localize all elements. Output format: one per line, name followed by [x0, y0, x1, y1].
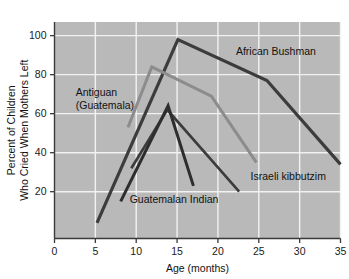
- x-tick-label: 35: [335, 245, 347, 257]
- series-label-guatemalan-indian: Guatemalan Indian: [130, 193, 219, 205]
- y-tick-label: 60: [35, 107, 47, 119]
- series-label-israeli-kibbutzim: Israeli kibbutzim: [251, 170, 327, 182]
- x-axis-title: Age (months): [166, 262, 229, 274]
- y-tick-label: 100: [29, 29, 47, 41]
- series-label-antiguan-guatemala: Antiguan: [76, 86, 118, 98]
- x-tick-label: 0: [52, 245, 58, 257]
- series-label-antiguan-guatemala: (Guatemala): [76, 99, 134, 111]
- series-label-african-bushman: African Bushman: [236, 45, 316, 57]
- x-tick-label: 25: [253, 245, 265, 257]
- y-axis-title-line-1: Percent of Children: [5, 85, 17, 175]
- y-axis-title-line-2: Who Cried When Mothers Left: [18, 60, 30, 201]
- x-tick-label: 10: [130, 245, 142, 257]
- y-tick-label: 80: [35, 68, 47, 80]
- chart-container: 2040608010005101520253035 African Bushma…: [0, 0, 349, 279]
- y-tick-label: 40: [35, 146, 47, 158]
- line-chart: 2040608010005101520253035 African Bushma…: [0, 0, 349, 279]
- y-tick-label: 20: [35, 185, 47, 197]
- x-tick-label: 5: [92, 245, 98, 257]
- x-tick-label: 15: [171, 245, 183, 257]
- x-tick-label: 30: [294, 245, 306, 257]
- x-tick-label: 20: [212, 245, 224, 257]
